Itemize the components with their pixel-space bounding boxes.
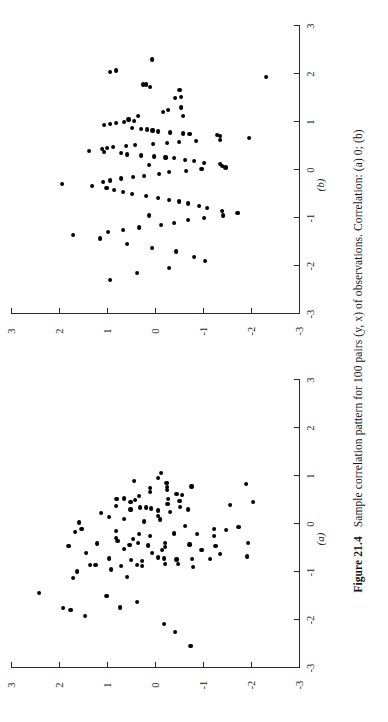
data-point [104, 594, 108, 598]
y-tick-b-4 [107, 308, 108, 314]
data-point [224, 528, 228, 532]
data-point [177, 499, 181, 503]
data-point [176, 562, 180, 566]
caption-gap [352, 527, 364, 536]
data-point [161, 110, 165, 114]
data-point [150, 551, 154, 555]
data-point [183, 524, 187, 528]
data-point [121, 228, 125, 232]
data-point [125, 575, 129, 579]
data-point [200, 167, 204, 171]
data-point [136, 541, 140, 545]
data-point [224, 166, 228, 170]
data-point [184, 169, 188, 173]
data-point [98, 237, 102, 241]
y-tick-b-0 [299, 308, 300, 314]
data-point [128, 543, 132, 547]
data-point [108, 178, 112, 182]
scatter-panel-a: -3-2-10123 -3-2-10123 (a) [6, 374, 336, 704]
data-point [202, 216, 206, 220]
y-tick-b-1 [251, 308, 252, 314]
data-point [202, 161, 206, 165]
data-point [164, 481, 168, 485]
x-tick-a-6 [294, 379, 300, 380]
data-point [218, 138, 222, 142]
plot-area-a: -3-2-10123 -3-2-10123 [12, 380, 300, 668]
data-point [177, 140, 181, 144]
data-point [190, 557, 194, 561]
data-point [105, 146, 109, 150]
data-point [121, 190, 125, 194]
data-point [108, 122, 112, 126]
data-point [147, 163, 151, 167]
data-point [236, 211, 240, 215]
data-point [122, 547, 126, 551]
data-point [107, 515, 111, 519]
data-point [156, 476, 160, 480]
y-tick-label-b-4: 1 [103, 328, 114, 333]
data-point [75, 569, 79, 573]
data-point [129, 558, 133, 562]
data-point [142, 520, 146, 524]
data-point [174, 250, 178, 254]
data-point [106, 230, 110, 234]
data-point [147, 214, 151, 218]
data-point [77, 520, 81, 524]
data-point [122, 120, 126, 124]
y-tick-label-a-5: 2 [55, 682, 66, 687]
data-point [163, 541, 167, 545]
y-tick-a-2 [203, 662, 204, 668]
data-point [137, 494, 141, 498]
data-point [144, 194, 148, 198]
data-point [172, 532, 176, 536]
y-tick-a-6 [11, 662, 12, 668]
data-point [127, 118, 131, 122]
data-point [228, 503, 232, 507]
panel-label-a: (a) [314, 374, 326, 704]
data-point [186, 218, 190, 222]
data-point [159, 223, 163, 227]
data-point [128, 508, 132, 512]
data-point [60, 182, 64, 186]
data-point [84, 551, 88, 555]
data-point [71, 233, 75, 237]
data-point [102, 150, 106, 154]
data-point [221, 214, 225, 218]
data-point [107, 556, 111, 560]
y-tick-a-0 [299, 662, 300, 668]
data-point [165, 502, 169, 506]
data-point [203, 259, 207, 263]
data-point [140, 564, 144, 568]
data-point [135, 563, 139, 567]
data-point [186, 202, 190, 206]
data-point [194, 139, 198, 143]
data-point [122, 517, 126, 521]
data-point [95, 542, 99, 546]
data-point [138, 506, 142, 510]
data-point [109, 568, 113, 572]
data-point [167, 198, 171, 202]
data-point [179, 95, 183, 99]
data-point [104, 186, 108, 190]
data-point [131, 537, 135, 541]
data-point [148, 534, 152, 538]
data-point [173, 630, 177, 634]
data-point [118, 605, 122, 609]
data-point [195, 532, 199, 536]
data-point [162, 622, 166, 626]
y-tick-label-b-2: -1 [199, 327, 210, 336]
data-point [148, 490, 152, 494]
data-point [142, 174, 146, 178]
data-point [173, 96, 177, 100]
x-tick-b-1 [294, 265, 300, 266]
x-tick-a-5 [294, 427, 300, 428]
data-point [218, 552, 222, 556]
data-point [208, 557, 212, 561]
x-tick-b-2 [294, 217, 300, 218]
data-point [83, 614, 87, 618]
y-tick-label-a-4: 1 [103, 682, 114, 687]
data-point [168, 510, 172, 514]
y-axis-line-b [12, 313, 300, 314]
data-point [125, 242, 129, 246]
data-point [175, 492, 179, 496]
